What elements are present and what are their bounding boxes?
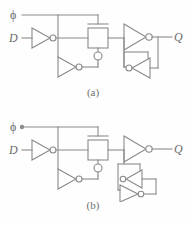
input-inverter-body-a [32,28,50,48]
output-inverter-bubble-a [146,34,152,40]
feedback-inverter-upper-body-b [126,170,142,188]
input-inverter-bubble-b [50,147,56,153]
clock-label-b: ϕ [10,120,16,134]
output-inverter-body-a [124,24,146,50]
clock-node-dot-b [20,125,24,129]
clock-inverter-body-b [58,169,76,189]
clock-inverter-bubble-a [76,64,82,70]
transmission-gate-box-b [88,140,108,160]
output-label-b: Q [174,142,183,156]
nmos-gate-bubble-b [94,164,102,172]
data-label-a: D [8,31,18,45]
feedback-inverter-body-a [132,58,150,78]
feedback-inverter-upper-bubble-b [120,176,126,182]
transmission-gate-box-a [88,28,108,48]
caption-b: (b) [0,199,186,211]
figure-container: ϕ D Q (a) [0,0,186,225]
output-inverter-bubble-b [146,146,152,152]
feedback-inverter-bubble-a [126,65,132,71]
clock-label-a: ϕ [10,8,16,22]
circuit-diagram-a: ϕ D Q [0,0,186,86]
circuit-diagram-b: ϕ D Q [0,112,186,202]
output-inverter-body-b [124,136,146,162]
input-inverter-body-b [32,140,50,160]
data-label-b: D [8,143,18,157]
input-inverter-bubble-a [50,35,56,41]
clock-inverter-body-a [58,57,76,77]
nmos-gate-bubble-a [94,52,102,60]
caption-a: (a) [0,86,186,98]
output-label-a: Q [174,30,183,44]
clock-inverter-bubble-b [76,176,82,182]
feedback-inverter-lower-bubble-b [138,191,144,197]
